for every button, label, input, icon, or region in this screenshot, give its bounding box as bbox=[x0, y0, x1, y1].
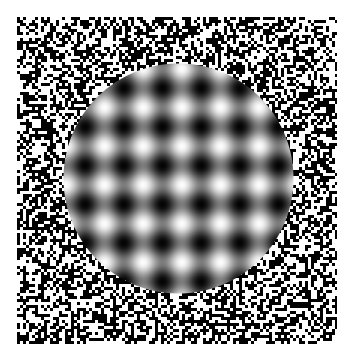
illusion-image: Optical illusion: circular sinusoidal gr… bbox=[0, 0, 353, 363]
illusion-canvas bbox=[0, 0, 353, 363]
